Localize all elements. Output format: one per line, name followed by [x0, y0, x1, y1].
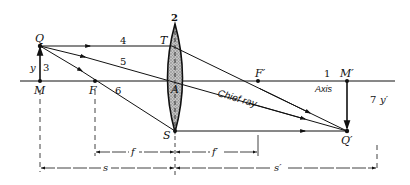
ray-5-chief-cont: [83, 57, 347, 132]
label-Q: Q: [35, 32, 44, 45]
number-5: 5: [120, 56, 126, 67]
dim-label-s-prime: s′: [274, 162, 282, 173]
label-M: M: [33, 84, 46, 97]
point-S: [173, 129, 177, 133]
dim-label-s: s: [103, 162, 108, 173]
label-F: F: [88, 84, 97, 97]
label-Q-prime: Q′: [341, 134, 353, 147]
point-F: [93, 79, 97, 83]
label-chief-ray: Chief ray: [216, 87, 258, 109]
number-4: 4: [120, 35, 126, 46]
dim-label-f-prime: f′: [211, 146, 219, 157]
ray-5-chief: [40, 46, 85, 57]
number-1: 1: [324, 68, 330, 79]
label-y: y: [29, 62, 36, 73]
ray-4-arrow: [260, 89, 310, 113]
point-M: [38, 79, 42, 83]
number-7: 7: [370, 94, 376, 105]
point-Q-prime: [345, 129, 349, 133]
number-3: 3: [43, 62, 49, 73]
chief-ray-arrow: [250, 103, 305, 119]
label-T: T: [160, 34, 169, 47]
label-S: S: [163, 129, 171, 142]
label-M-prime: M′: [339, 67, 354, 80]
label-A: A: [170, 83, 179, 96]
number-6: 6: [115, 85, 121, 96]
label-axis: Axis: [314, 84, 333, 94]
label-F-prime: F′: [254, 67, 266, 80]
number-2: 2: [171, 12, 178, 23]
label-y-prime: y′: [379, 94, 389, 105]
lens-ray-diagram: Q M F A T S F′ M′ Q′ 1 2 3 4 5 6 7 y y′ …: [0, 0, 410, 185]
